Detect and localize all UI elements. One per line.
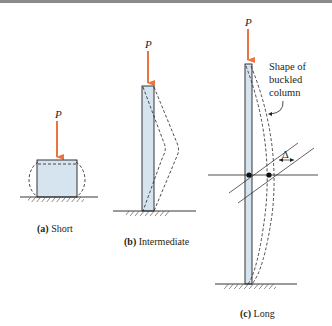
annotation-line-2: buckled xyxy=(269,74,303,85)
ground-hatch xyxy=(28,197,84,202)
load-label: P xyxy=(54,108,62,120)
intermediate-column xyxy=(142,86,154,211)
annotation-line-1: Shape of xyxy=(269,61,307,72)
load-label: P xyxy=(144,38,152,50)
ground-hatch xyxy=(126,211,170,216)
load-label: P xyxy=(244,16,252,28)
panel-short: P (a) Short xyxy=(20,108,98,235)
caption-long: (c) Long xyxy=(240,308,275,320)
short-column xyxy=(37,160,77,197)
buckled-shape-outer xyxy=(154,87,179,211)
panel-long: P Δ Shape of buckled column (c) Long xyxy=(208,16,318,320)
ground-hatch xyxy=(224,284,276,289)
caption-short: (a) Short xyxy=(37,223,73,235)
column-buckling-diagram: P (a) Short P (b) Intermediate P xyxy=(0,0,332,326)
deflected-position-dot xyxy=(266,172,271,177)
delta-label: Δ xyxy=(282,149,289,160)
caption-intermediate: (b) Intermediate xyxy=(124,236,190,248)
annotation-line-3: column xyxy=(269,87,301,98)
panel-intermediate: P (b) Intermediate xyxy=(113,38,196,248)
